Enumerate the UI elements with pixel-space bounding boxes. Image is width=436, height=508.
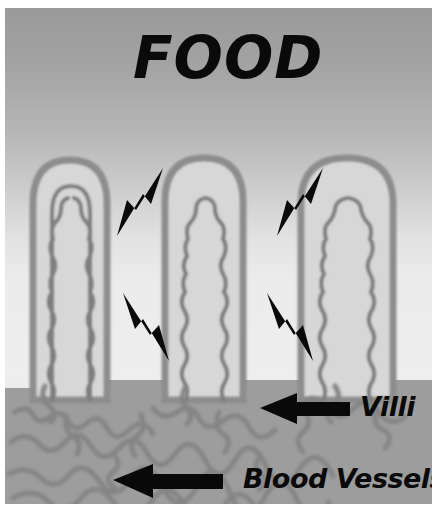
villus-middle [165, 158, 243, 400]
villus-left-body [33, 160, 107, 400]
page-title: FOOD [133, 24, 323, 92]
vessel-connector-2 [131, 414, 143, 456]
villi-label: Villi [360, 391, 415, 422]
villi-group [33, 158, 393, 400]
villus-right-body [301, 158, 393, 400]
figure-canvas: FOOD Villi Blood Vessels [0, 0, 436, 508]
villus-middle-body [165, 158, 243, 400]
villus-right [301, 158, 393, 400]
vessel-connector-4 [298, 410, 309, 452]
blood-vessels-label: Blood Vessels [243, 463, 432, 494]
vessel-strand-1 [15, 409, 153, 437]
vessel-strand-2 [153, 408, 275, 437]
vessel-connector-6 [108, 454, 118, 488]
villus-left [33, 160, 107, 400]
diagram-frame: FOOD Villi Blood Vessels [5, 8, 432, 504]
food-arrow-upper-left [117, 168, 163, 236]
